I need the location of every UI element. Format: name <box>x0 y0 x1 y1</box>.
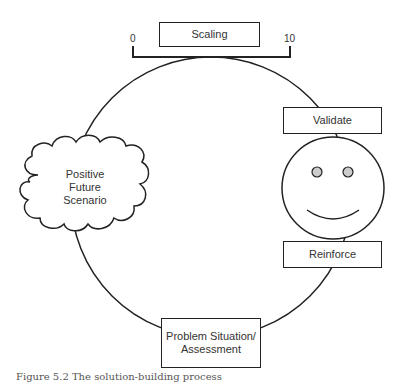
left-eye <box>312 167 322 177</box>
positive-future-label: Positive Future Scenario <box>45 168 125 207</box>
reinforce-label: Reinforce <box>309 248 356 261</box>
problem-line2: Assessment <box>181 343 241 356</box>
right-eye <box>343 167 353 177</box>
positive-future-line3: Scenario <box>45 194 125 207</box>
validate-box: Validate <box>283 107 382 134</box>
figure-caption: Figure 5.2 The solution-building process <box>16 371 222 382</box>
problem-box: Problem Situation/ Assessment <box>161 318 261 368</box>
scale-max-label: 10 <box>284 33 295 44</box>
reinforce-box: Reinforce <box>283 241 382 268</box>
validate-label: Validate <box>313 114 352 127</box>
scaling-label: Scaling <box>191 28 227 41</box>
scaling-box: Scaling <box>159 22 260 47</box>
positive-future-line1: Positive <box>45 168 125 181</box>
problem-line1: Problem Situation/ <box>166 330 256 343</box>
positive-future-line2: Future <box>45 181 125 194</box>
smiley-face-icon <box>282 137 384 239</box>
scale-min-label: 0 <box>130 33 136 44</box>
scale-bracket <box>133 46 290 57</box>
